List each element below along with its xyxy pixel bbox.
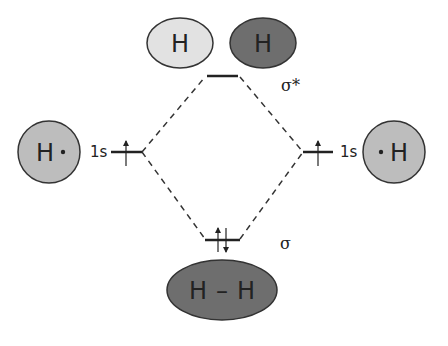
bonding-label: σ <box>280 234 291 253</box>
left-atom: H 1s <box>18 121 142 183</box>
up-arrow-icon <box>123 140 129 146</box>
mo-diagram: H H σ* H 1s H 1s σ <box>0 0 448 346</box>
right-atom-symbol: H <box>390 139 408 167</box>
h2-molecule: H – H <box>167 260 277 320</box>
bonding-orbital: σ <box>205 227 291 253</box>
right-orbital-label: 1s <box>340 143 358 161</box>
antibonding-lobe-left-label: H <box>171 30 189 58</box>
antibonding-lobe-right-label: H <box>254 30 272 58</box>
antibonding-orbital-lobes: H H <box>147 18 296 68</box>
up-arrow-icon <box>215 227 221 233</box>
right-radical-dot <box>379 150 383 154</box>
left-atom-symbol: H <box>36 139 54 167</box>
correlation-lines <box>142 77 303 239</box>
left-orbital-label: 1s <box>90 143 108 161</box>
h2-left-symbol: H <box>189 277 207 305</box>
h2-right-symbol: H <box>237 277 255 305</box>
down-arrow-icon <box>223 247 229 253</box>
left-radical-dot <box>61 150 65 154</box>
h2-bond: – <box>216 277 228 305</box>
right-atom: H 1s <box>303 121 425 183</box>
antibonding-label: σ* <box>281 76 300 95</box>
up-arrow-icon <box>315 140 321 146</box>
